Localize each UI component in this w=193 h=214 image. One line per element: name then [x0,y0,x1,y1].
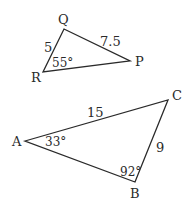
angle-label-b: 92° [120,165,141,179]
vertex-label-a: A [11,134,22,149]
side-label-cb: 9 [156,140,164,155]
vertex-label-c: C [172,88,182,103]
angle-label-a: 33° [45,135,66,149]
vertex-label-p: P [135,54,144,69]
vertex-label-q: Q [58,12,69,27]
side-label-qr: 5 [44,40,52,55]
angle-label-r: 55° [52,56,73,70]
side-label-qp: 7.5 [100,34,121,49]
diagram-canvas: Q P R 5 7.5 55° A C B 15 9 33° 92° [0,0,193,214]
vertex-label-r: R [31,70,42,85]
side-label-ac: 15 [87,105,104,120]
vertex-label-b: B [130,186,140,201]
